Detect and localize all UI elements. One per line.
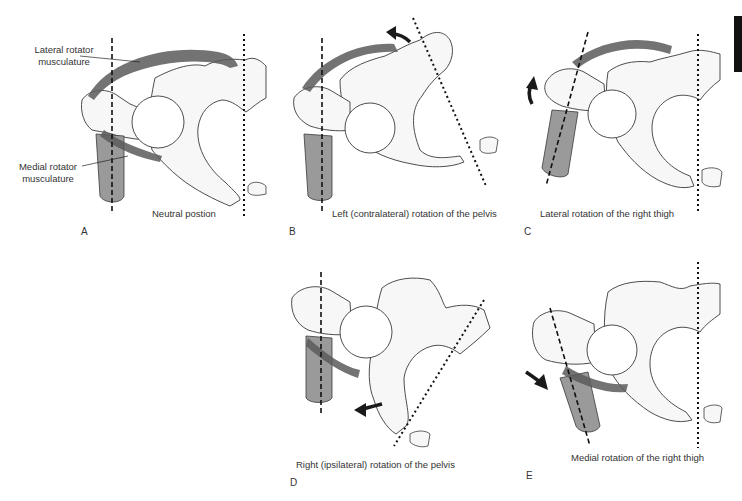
panel-e-caption: Medial rotation of the right thigh: [571, 452, 704, 463]
callout-medial-line2: musculature: [8, 173, 88, 185]
callout-medial-line1: Medial rotator: [8, 161, 88, 173]
callout-medial-rotator: Medial rotator musculature: [8, 161, 88, 185]
panel-a-letter: A: [81, 226, 88, 237]
panel-e-letter: E: [526, 470, 533, 481]
hip-diagram-medial-thigh-rotation: [500, 250, 734, 501]
panel-c-letter: C: [524, 226, 531, 237]
panel-c: Lateral rotation of the right thigh C: [500, 0, 734, 240]
hip-diagram-lateral-thigh-rotation: [500, 0, 734, 240]
hip-diagram-contralateral-pelvis-rotation: [250, 0, 510, 240]
callout-lateral-rotator: Lateral rotator musculature: [24, 44, 104, 68]
callout-lateral-line2: musculature: [24, 56, 104, 68]
panel-c-caption: Lateral rotation of the right thigh: [540, 208, 674, 219]
panel-d: Right (ipsilateral) rotation of the pelv…: [270, 250, 510, 501]
panel-a: Lateral rotator musculature Medial rotat…: [0, 0, 270, 240]
panel-b: Left (contralateral) rotation of the pel…: [250, 0, 510, 240]
panel-b-caption: Left (contralateral) rotation of the pel…: [332, 208, 497, 219]
panel-d-letter: D: [290, 477, 297, 488]
hip-diagram-neutral: [0, 0, 270, 240]
panel-a-caption: Neutral postion: [152, 208, 216, 219]
panel-e: Medial rotation of the right thigh E: [500, 250, 734, 501]
panel-b-letter: B: [289, 226, 296, 237]
panel-d-caption: Right (ipsilateral) rotation of the pelv…: [296, 459, 455, 470]
section-tab-marker: [734, 16, 742, 72]
callout-lateral-line1: Lateral rotator: [24, 44, 104, 56]
